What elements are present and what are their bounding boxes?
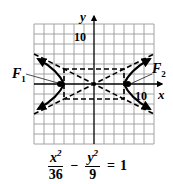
x-term-fraction: x2 36 bbox=[48, 151, 64, 182]
x-tick-label: 10 bbox=[135, 89, 147, 103]
y-axis-label: y bbox=[78, 9, 86, 24]
x-exponent: 2 bbox=[57, 148, 62, 158]
minus-operator: − bbox=[70, 158, 78, 174]
rhs-value: 1 bbox=[120, 158, 127, 174]
y-tick-label: 10 bbox=[74, 30, 86, 44]
y-term-fraction: y2 9 bbox=[85, 151, 100, 182]
y-denominator: 9 bbox=[89, 167, 96, 182]
center-point bbox=[92, 82, 96, 86]
hyperbola-graph: y 10 x 10 F1 F2 bbox=[0, 0, 173, 150]
focus-f2-label: F2 bbox=[151, 61, 166, 79]
equals-sign: = bbox=[107, 158, 115, 174]
hyperbola-equation: x2 36 − y2 9 = 1 bbox=[0, 148, 173, 184]
y-exponent: 2 bbox=[94, 148, 99, 158]
f1-leader-line bbox=[26, 74, 58, 83]
focus-f1-label: F1 bbox=[11, 66, 26, 84]
focus-f1-point bbox=[57, 81, 63, 87]
x-variable: x bbox=[50, 150, 57, 165]
x-axis-label: x bbox=[157, 87, 165, 102]
x-denominator: 36 bbox=[49, 167, 63, 182]
f2-leader-line bbox=[130, 74, 152, 84]
